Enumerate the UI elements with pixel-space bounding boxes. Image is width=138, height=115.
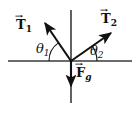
angle-label-theta1-symbol: θ xyxy=(36,41,44,56)
force-diagram: T 1 T 2 F g θ1 θ2 xyxy=(0,0,138,115)
angle-label-theta2: θ2 xyxy=(90,44,104,60)
vector-label-t2-subscript: 2 xyxy=(111,18,117,28)
vector-label-t1-letter: T xyxy=(16,17,26,32)
angle-arc-theta1 xyxy=(49,43,58,61)
vector-arrow-overbar-t1 xyxy=(15,13,24,18)
angle-label-theta1: θ1 xyxy=(36,42,50,58)
vector-label-fg-letter: F xyxy=(76,65,85,80)
vector-arrow-overbar-t2 xyxy=(100,7,109,12)
vector-label-t1-subscript: 1 xyxy=(26,24,32,34)
vector-arrow-overbar-fg xyxy=(75,61,84,66)
vector-label-t2-base: T xyxy=(101,12,111,25)
angle-label-theta2-subscript: 2 xyxy=(98,50,104,60)
vector-label-t1-base: T xyxy=(16,18,26,31)
vector-label-t1: T 1 xyxy=(16,18,32,34)
vector-label-fg-subscript: g xyxy=(85,72,91,82)
angle-label-theta2-symbol: θ xyxy=(90,43,98,58)
vector-label-fg: F g xyxy=(76,66,92,82)
vector-label-t2: T 2 xyxy=(101,12,117,28)
vector-label-fg-base: F xyxy=(76,66,85,79)
angle-label-theta1-subscript: 1 xyxy=(44,48,50,58)
vector-label-t2-letter: T xyxy=(101,11,111,26)
